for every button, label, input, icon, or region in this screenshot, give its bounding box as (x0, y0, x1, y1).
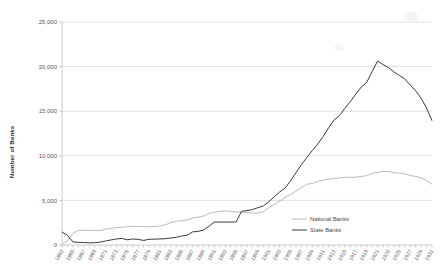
x-tick-label-1905: 1905 (282, 248, 293, 261)
x-tick-label-1883: 1883 (162, 248, 173, 261)
x-tick-label-1869: 1869 (86, 248, 97, 261)
chart-legend: National BanksState Banks (292, 216, 349, 233)
x-tick-label-1901: 1901 (260, 248, 271, 261)
y-axis-title: Number of Banks (8, 125, 15, 178)
y-tick-marks (59, 22, 62, 245)
x-tick-label-1923: 1923 (380, 248, 391, 261)
x-tick-label-1891: 1891 (206, 248, 217, 261)
x-tick-label-1887: 1887 (184, 248, 195, 261)
x-tick-labels: 1863186518671869187118731875187718791881… (53, 248, 434, 261)
x-tick-label-1873: 1873 (108, 248, 119, 261)
x-tick-label-1889: 1889 (195, 248, 206, 261)
x-tick-label-1885: 1885 (173, 248, 184, 261)
y-tick-label-25000: 25,000 (39, 19, 58, 25)
series-line-national-banks (62, 171, 432, 244)
x-tick-label-1917: 1917 (347, 248, 358, 261)
gridlines-group (62, 22, 432, 200)
x-tick-label-1893: 1893 (217, 248, 228, 261)
x-tick-label-1929: 1929 (413, 248, 424, 261)
x-tick-label-1877: 1877 (130, 248, 141, 261)
y-tick-labels: 05,00010,00015,00020,00025,000 (39, 19, 58, 248)
x-tick-label-1899: 1899 (249, 248, 260, 261)
y-tick-label-0: 0 (54, 242, 58, 248)
x-tick-label-1881: 1881 (151, 248, 162, 261)
x-tick-label-1871: 1871 (97, 248, 108, 261)
x-tick-label-1897: 1897 (238, 248, 249, 261)
x-tick-label-1919: 1919 (358, 248, 369, 261)
x-tick-label-1907: 1907 (293, 248, 304, 261)
x-tick-label-1895: 1895 (228, 248, 239, 261)
bank-count-line-chart: 05,00010,00015,00020,00025,000 186318651… (0, 0, 443, 280)
legend-label-0: National Banks (310, 216, 349, 222)
x-tick-label-1913: 1913 (326, 248, 337, 261)
chart-canvas: 05,00010,00015,00020,00025,000 186318651… (0, 0, 443, 280)
scan-artifact-2 (334, 44, 344, 51)
x-tick-label-1931: 1931 (423, 248, 434, 261)
x-tick-label-1921: 1921 (369, 248, 380, 261)
x-tick-label-1925: 1925 (391, 248, 402, 261)
x-tick-label-1879: 1879 (141, 248, 152, 261)
x-tick-label-1865: 1865 (64, 248, 75, 261)
x-tick-label-1909: 1909 (304, 248, 315, 261)
x-tick-label-1915: 1915 (336, 248, 347, 261)
x-tick-label-1863: 1863 (53, 248, 64, 261)
series-line-state-banks (62, 61, 432, 243)
y-tick-label-20000: 20,000 (39, 64, 58, 70)
x-tick-marks (62, 245, 432, 248)
y-tick-label-15000: 15,000 (39, 108, 58, 114)
x-tick-label-1875: 1875 (119, 248, 130, 261)
legend-label-1: State Banks (310, 227, 341, 233)
scan-artifact (404, 12, 418, 21)
x-tick-label-1903: 1903 (271, 248, 282, 261)
x-tick-label-1927: 1927 (402, 248, 413, 261)
y-tick-label-10000: 10,000 (39, 153, 58, 159)
y-tick-label-5000: 5,000 (42, 198, 58, 204)
x-tick-label-1867: 1867 (75, 248, 86, 261)
x-tick-label-1911: 1911 (315, 248, 326, 261)
